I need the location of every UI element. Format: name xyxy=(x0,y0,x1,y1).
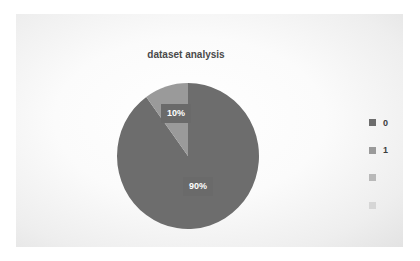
chart-title: dataset analysis xyxy=(16,49,356,60)
legend-item-1[interactable]: 1 xyxy=(369,137,399,165)
legend-item-3[interactable] xyxy=(369,192,399,220)
data-label-slice-0: 90% xyxy=(183,177,213,196)
pie-chart: 10% 90% xyxy=(116,82,260,230)
legend-swatch-1 xyxy=(369,147,376,154)
legend-label-1: 1 xyxy=(383,145,388,155)
chart-legend: 0 1 xyxy=(369,109,399,219)
legend-swatch-0 xyxy=(369,119,376,126)
legend-swatch-3 xyxy=(369,202,376,209)
legend-item-0[interactable]: 0 xyxy=(369,109,399,137)
chart-panel: dataset analysis 10% 90% 0 1 xyxy=(16,14,403,247)
legend-label-0: 0 xyxy=(383,118,388,128)
data-label-slice-1: 10% xyxy=(161,104,191,123)
legend-item-2[interactable] xyxy=(369,164,399,192)
legend-swatch-2 xyxy=(369,174,376,181)
